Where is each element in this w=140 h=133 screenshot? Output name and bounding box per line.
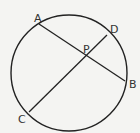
label-c: C [18, 113, 26, 126]
label-b: B [129, 78, 137, 91]
label-d: D [110, 23, 118, 36]
label-a: A [34, 12, 42, 25]
label-p: P [83, 43, 90, 56]
chord-cd [29, 35, 107, 112]
circle-chords-diagram: A B C D P [0, 0, 140, 133]
